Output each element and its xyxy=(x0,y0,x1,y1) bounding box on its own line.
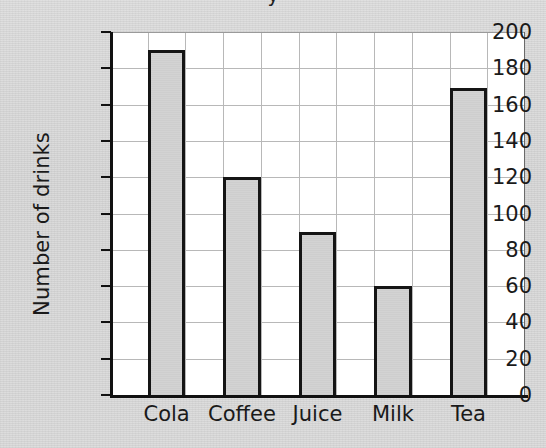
y-axis-tick xyxy=(101,358,111,360)
bar xyxy=(148,50,186,395)
y-axis-tick-label: 40 xyxy=(450,310,546,334)
y-axis-tick xyxy=(101,67,111,69)
bar xyxy=(299,232,337,395)
gridline-vertical xyxy=(412,32,413,395)
y-axis-tick xyxy=(101,321,111,323)
y-axis-tick xyxy=(101,249,111,251)
title-fragment-text: y xyxy=(267,0,278,5)
y-axis-tick xyxy=(101,31,111,33)
y-axis-title: Number of drinks xyxy=(30,74,54,374)
y-axis-tick xyxy=(101,104,111,106)
y-axis-tick xyxy=(101,394,111,396)
y-axis-tick xyxy=(101,176,111,178)
y-axis-tick xyxy=(101,285,111,287)
y-axis-line xyxy=(110,32,113,398)
y-axis-tick xyxy=(101,140,111,142)
x-axis-category-label: Milk xyxy=(351,402,434,426)
bar xyxy=(374,286,412,395)
x-axis-category-label: Coffee xyxy=(201,402,284,426)
y-axis-tick-label: 180 xyxy=(450,56,546,80)
x-axis-category-label: Cola xyxy=(125,402,208,426)
x-axis-category-label: Juice xyxy=(276,402,359,426)
y-axis-tick-label: 200 xyxy=(450,20,546,44)
y-axis-tick-label: 140 xyxy=(450,129,546,153)
y-axis-tick-label: 80 xyxy=(450,238,546,262)
x-axis-category-label: Tea xyxy=(427,402,510,426)
gridline-vertical xyxy=(261,32,262,395)
bar-chart-figure: y Number of drinks 020406080100120140160… xyxy=(0,0,546,448)
y-axis-tick-label: 60 xyxy=(450,274,546,298)
y-axis-tick xyxy=(101,213,111,215)
y-axis-tick-label: 100 xyxy=(450,202,546,226)
y-axis-tick-label: 120 xyxy=(450,165,546,189)
y-axis-tick-label: 160 xyxy=(450,93,546,117)
cut-off-title-fragment: y xyxy=(0,0,546,16)
y-axis-tick-label: 20 xyxy=(450,347,546,371)
bar xyxy=(223,177,261,395)
